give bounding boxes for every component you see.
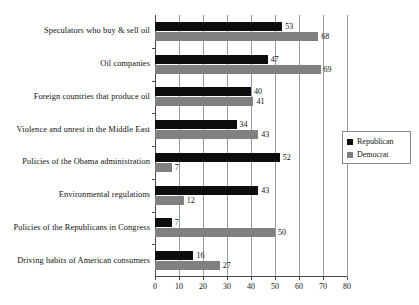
category-tick <box>152 113 155 114</box>
category-label: Policies of the Republicans in Congress <box>0 223 150 232</box>
bar-republican[interactable] <box>155 186 258 195</box>
value-tick <box>227 277 228 280</box>
bar-value-label: 27 <box>223 261 231 270</box>
legend: Republican Democrat <box>342 131 411 164</box>
bar-value-label: 7 <box>175 163 179 172</box>
gridline <box>323 15 324 277</box>
bar-value-label: 7 <box>175 218 179 227</box>
bar-democrat[interactable] <box>155 65 321 74</box>
value-tick <box>155 277 156 280</box>
category-label: Violence and unrest in the Middle East <box>0 125 150 134</box>
bar-value-label: 69 <box>324 65 332 74</box>
value-tick-label: 80 <box>337 282 357 291</box>
gridline <box>299 15 300 277</box>
legend-label-democrat: Democrat <box>357 150 389 159</box>
bar-republican[interactable] <box>155 153 280 162</box>
value-tick <box>299 277 300 280</box>
bar-value-label: 34 <box>240 120 248 129</box>
legend-item-republican[interactable]: Republican <box>347 135 410 148</box>
value-tick-label: 70 <box>313 282 333 291</box>
republican-swatch-icon <box>347 139 353 145</box>
plot-area: 536847694041344352743127501627 <box>155 15 347 277</box>
value-tick-label: 20 <box>193 282 213 291</box>
bar-value-label: 43 <box>261 130 269 139</box>
category-label: Environmental regulations <box>0 190 150 199</box>
category-tick <box>152 48 155 49</box>
legend-label-republican: Republican <box>357 137 393 146</box>
bar-democrat[interactable] <box>155 97 253 106</box>
bar-value-label: 12 <box>187 196 195 205</box>
bar-republican[interactable] <box>155 120 237 129</box>
category-tick <box>152 244 155 245</box>
category-label: Oil companies <box>0 59 150 68</box>
category-tick <box>152 179 155 180</box>
value-tick-label: 40 <box>241 282 261 291</box>
bar-value-label: 16 <box>196 251 204 260</box>
value-tick <box>203 277 204 280</box>
bar-republican[interactable] <box>155 55 268 64</box>
value-tick <box>347 277 348 280</box>
bar-republican[interactable] <box>155 87 251 96</box>
bar-value-label: 68 <box>321 32 329 41</box>
value-tick <box>251 277 252 280</box>
bar-democrat[interactable] <box>155 32 318 41</box>
category-label: Policies of the Obama administration <box>0 157 150 166</box>
bar-value-label: 43 <box>261 186 269 195</box>
bar-democrat[interactable] <box>155 130 258 139</box>
category-label: Foreign countries that produce oil <box>0 92 150 101</box>
bar-value-label: 52 <box>283 153 291 162</box>
value-tick-label: 10 <box>169 282 189 291</box>
bar-value-label: 53 <box>285 22 293 31</box>
bar-republican[interactable] <box>155 22 282 31</box>
bar-value-label: 40 <box>254 87 262 96</box>
bar-value-label: 47 <box>271 55 279 64</box>
category-tick <box>152 212 155 213</box>
value-tick <box>275 277 276 280</box>
bar-democrat[interactable] <box>155 261 220 270</box>
value-tick-label: 30 <box>217 282 237 291</box>
bar-democrat[interactable] <box>155 163 172 172</box>
bar-republican[interactable] <box>155 251 193 260</box>
category-label: Speculators who buy & sell oil <box>0 26 150 35</box>
value-tick <box>179 277 180 280</box>
value-tick-label: 50 <box>265 282 285 291</box>
bar-republican[interactable] <box>155 218 172 227</box>
value-tick-label: 0 <box>145 282 165 291</box>
bar-chart: Speculators who buy & sell oilOil compan… <box>0 0 419 305</box>
democrat-swatch-icon <box>347 152 353 158</box>
category-tick <box>152 81 155 82</box>
category-label: Driving habits of American consumers <box>0 256 150 265</box>
legend-item-democrat[interactable]: Democrat <box>347 148 410 161</box>
bar-democrat[interactable] <box>155 228 275 237</box>
bar-democrat[interactable] <box>155 196 184 205</box>
value-tick-label: 60 <box>289 282 309 291</box>
bar-value-label: 41 <box>256 97 264 106</box>
value-tick <box>323 277 324 280</box>
bar-value-label: 50 <box>278 228 286 237</box>
category-tick <box>152 146 155 147</box>
